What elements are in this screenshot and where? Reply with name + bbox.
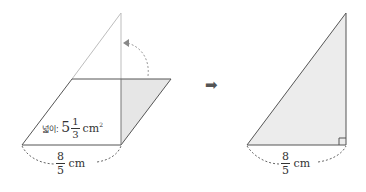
left-base-unit: cm [69,157,86,170]
base-brace-right [97,146,121,162]
right-base-numerator: 8 [281,151,290,164]
right-triangle [247,13,346,145]
rotation-arrowhead-icon [123,39,129,47]
right-base-label: 85 cm [281,151,310,176]
area-whole: 5 [61,119,70,135]
right-base-denominator: 5 [282,164,289,176]
right-figure [247,13,346,164]
area-label: 넓이: 513cm2 [42,117,103,140]
base-brace-right [318,146,346,162]
area-numerator: 1 [71,117,79,129]
transition-arrow-icon: ➡ [205,76,218,94]
base-brace-left [22,146,55,164]
left-figure [22,13,171,164]
left-base-numerator: 8 [56,151,65,164]
area-denominator: 3 [72,129,78,140]
left-base-label: 85 cm [56,151,85,176]
diagram-canvas [0,0,366,192]
area-label-prefix: 넓이: [42,125,61,134]
area-unit: cm [83,122,100,135]
base-brace-left [247,146,280,164]
left-base-denominator: 5 [57,164,64,176]
right-base-unit: cm [294,157,311,170]
area-exponent: 2 [99,121,103,128]
triangle-outline-faint [72,13,121,79]
rotation-arrow-curve [127,43,148,76]
